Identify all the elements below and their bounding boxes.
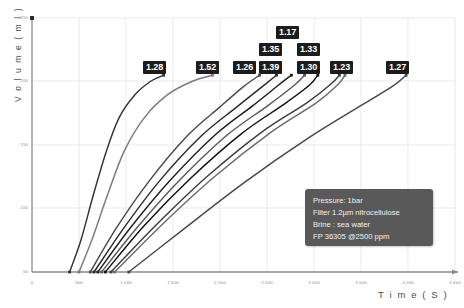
series-endpoint-marker [68, 271, 71, 274]
series-endpoint-marker [211, 74, 214, 77]
y-tick-label: 150 [12, 142, 28, 147]
x-tick-label: 3 000 [294, 280, 334, 285]
series-endpoint-marker [100, 271, 103, 274]
series-line [102, 75, 305, 272]
series-endpoint-marker [93, 271, 96, 274]
info-line-filter: Filter 1.2µm nitrocellulose [313, 208, 400, 217]
series-endpoint-marker [344, 74, 347, 77]
x-tick-label: 2 500 [247, 280, 287, 285]
chart-canvas: V o l u m e ( m l ) T i m e ( S ) [0, 0, 464, 308]
series-endpoint-marker [258, 74, 261, 77]
data-label-1[interactable]: 1.28 [143, 61, 166, 74]
series-endpoint-marker [96, 271, 99, 274]
series-line [70, 75, 164, 272]
series-endpoint-marker [104, 271, 107, 274]
x-tick-label: 2 000 [200, 280, 240, 285]
y-tick-label: 250 [12, 15, 28, 20]
series-endpoint-marker [290, 74, 293, 77]
data-label-4[interactable]: 1.35 [259, 43, 282, 56]
info-line-product: FP 36305 @2500 ppm [313, 232, 389, 241]
series-endpoint-marker [113, 271, 116, 274]
series-endpoint-marker [78, 271, 81, 274]
data-label-2[interactable]: 1.52 [196, 61, 219, 74]
series-endpoint-marker [316, 74, 319, 77]
data-label-9[interactable]: 1.23 [330, 61, 353, 74]
x-tick-label: 4 500 [435, 280, 464, 285]
y-tick-label: 100 [12, 205, 28, 210]
data-label-3[interactable]: 1.26 [233, 61, 256, 74]
series-endpoint-marker [303, 74, 306, 77]
data-label-10[interactable]: 1.27 [386, 61, 409, 74]
data-label-5[interactable]: 1.39 [259, 61, 282, 74]
x-tick-label: 3 500 [341, 280, 381, 285]
series-endpoint-marker [127, 271, 130, 274]
x-tick-label: 500 [59, 280, 99, 285]
series-endpoint-marker [338, 74, 341, 77]
info-line-brine: Brine : sea water [313, 220, 370, 229]
y-axis-cap-marker [30, 16, 34, 20]
experiment-info-panel: Pressure: 1bar Filter 1.2µm nitrocellulo… [305, 189, 433, 246]
data-label-6[interactable]: 1.17 [276, 26, 299, 39]
y-tick-label: 50 [12, 269, 28, 274]
x-tick-label: 4 000 [388, 280, 428, 285]
series-endpoint-marker [405, 74, 408, 77]
plot-area [0, 0, 464, 308]
y-tick-label: 200 [12, 78, 28, 83]
info-line-pressure: Pressure: 1bar [313, 196, 363, 205]
series-endpoint-marker [110, 271, 113, 274]
series-endpoint-marker [162, 74, 165, 77]
x-tick-label: 0 [12, 280, 52, 285]
data-label-7[interactable]: 1.33 [297, 43, 320, 56]
data-label-8[interactable]: 1.30 [297, 61, 320, 74]
series-endpoint-marker [275, 74, 278, 77]
series-endpoint-marker [89, 271, 92, 274]
x-tick-label: 1 000 [106, 280, 146, 285]
x-tick-label: 1 500 [153, 280, 193, 285]
